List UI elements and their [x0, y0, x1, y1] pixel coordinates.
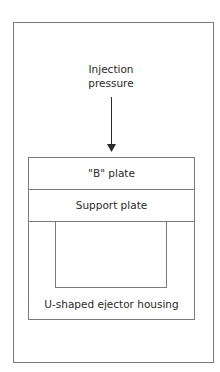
ejector-housing-cavity [55, 221, 167, 288]
support-plate-label: Support plate [28, 199, 195, 212]
b-plate-label: "B" plate [28, 167, 195, 180]
ejector-housing-label: U-shaped ejector housing [28, 298, 195, 311]
b-plate-divider [28, 189, 195, 190]
